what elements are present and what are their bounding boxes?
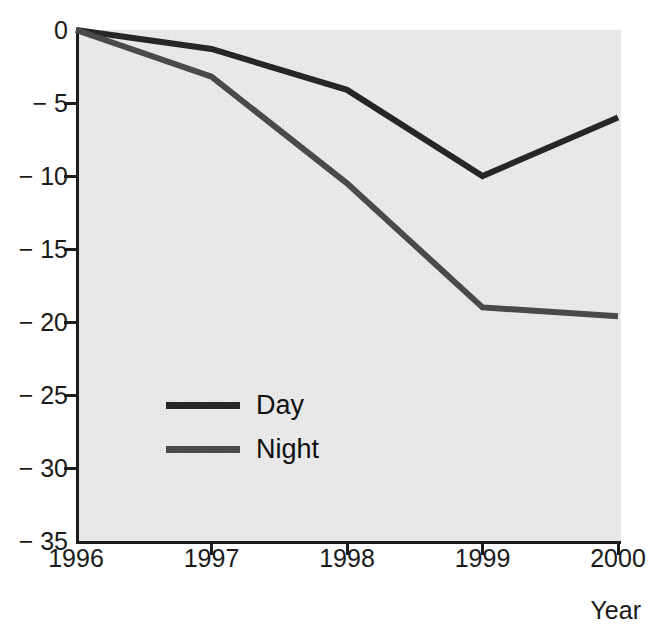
- x-tick-label: 2000: [590, 546, 646, 571]
- legend-swatch-night-icon: [166, 446, 240, 453]
- y-tick-label: − 15: [0, 237, 68, 262]
- x-tick-label: 1997: [184, 546, 240, 571]
- line-chart-figure: g 0− 5− 10− 15− 20− 25− 30− 35 199619971…: [0, 0, 655, 634]
- plot-area: [76, 30, 621, 544]
- y-tick-label: 0: [0, 18, 68, 43]
- legend-swatch-day-icon: [166, 402, 240, 409]
- chart-legend: Day Night: [166, 383, 319, 471]
- y-tick-label: − 30: [0, 456, 68, 481]
- legend-item-day: Day: [166, 383, 319, 427]
- legend-label-night: Night: [256, 436, 319, 463]
- y-tick-label: − 20: [0, 310, 68, 335]
- plot-background-texture: [79, 30, 621, 541]
- y-tick-label: − 25: [0, 383, 68, 408]
- legend-item-night: Night: [166, 427, 319, 471]
- y-tick-label: − 10: [0, 164, 68, 189]
- x-axis-title: Year: [590, 598, 641, 623]
- y-tick-label: − 5: [0, 91, 68, 116]
- x-tick-label: 1996: [48, 546, 104, 571]
- x-tick-label: 1998: [319, 546, 375, 571]
- x-tick-label: 1999: [455, 546, 511, 571]
- legend-label-day: Day: [256, 392, 304, 419]
